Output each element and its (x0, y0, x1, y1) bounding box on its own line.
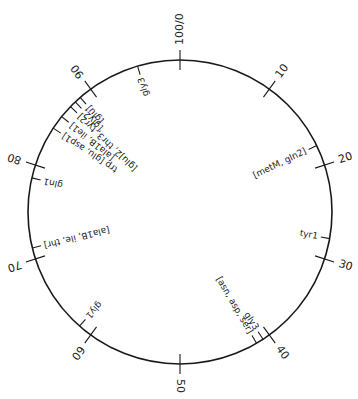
locus-tick (32, 246, 41, 248)
locus-label: tyr1 (299, 228, 319, 241)
scale-tick (263, 327, 275, 343)
locus-tick (138, 66, 141, 75)
locus-tick (258, 332, 263, 340)
locus-tick (32, 178, 41, 180)
locus-label: gly3 (136, 76, 151, 97)
scale-label: 50 (174, 379, 187, 393)
locus-label: gly1 (84, 300, 104, 321)
scale-label: 10 (272, 61, 291, 80)
locus-tick (79, 319, 85, 326)
scale-label: 60 (69, 344, 88, 363)
scale-label: 70 (6, 258, 23, 275)
scale-label: 40 (273, 343, 292, 362)
locus-tick (53, 128, 61, 133)
scale-label: 80 (6, 150, 23, 167)
scale-label: 100/0 (173, 13, 186, 45)
scale-label: 20 (337, 149, 354, 166)
scale-ticks: 100/0102030405060708090 (6, 13, 355, 393)
scale-tick (85, 327, 97, 343)
locus-label: [ala1B, ile, thr] (43, 225, 111, 251)
locus-tick (71, 107, 77, 113)
locus-tick (321, 237, 330, 239)
map-circle (28, 60, 332, 364)
locus-tick (309, 146, 317, 150)
scale-label: 30 (337, 257, 354, 274)
scale-tick (85, 81, 97, 97)
locus-tick (252, 336, 257, 344)
scale-label: 90 (68, 62, 87, 81)
locus-tick (75, 102, 81, 109)
scale-tick (263, 81, 275, 97)
locus-tick (80, 97, 86, 104)
locus-label: [metM, gln2] (251, 146, 308, 180)
locus-label: gln1 (42, 176, 63, 190)
circular-genetic-map: 100/0102030405060708090 gly3[glu][gly2,[… (0, 0, 358, 399)
locus-tick (62, 117, 69, 123)
gene-loci: gly3[glu][gly2,[glu]2, thr3, tyr2][ala1B… (32, 66, 330, 343)
